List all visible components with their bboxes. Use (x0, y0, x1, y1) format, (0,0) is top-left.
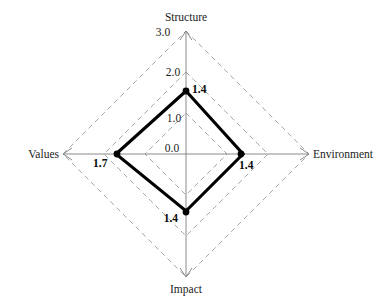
tick-label-3: 3.0 (156, 26, 171, 38)
data-point-environment (238, 151, 245, 158)
value-label-impact: 1.4 (164, 212, 179, 224)
data-point-structure (183, 88, 190, 95)
axis-label-values: Values (28, 148, 59, 160)
tick-label-0: 0.0 (165, 142, 180, 154)
value-label-values: 1.7 (93, 157, 108, 169)
radar-chart: 3.0 2.0 1.0 0.0 Structure Environment Im… (0, 0, 386, 305)
axis-label-impact: Impact (170, 283, 203, 296)
axis-lines (63, 31, 309, 277)
value-label-structure: 1.4 (192, 83, 207, 95)
axis-label-environment: Environment (313, 148, 374, 160)
data-point-impact (183, 209, 190, 216)
data-polygon (116, 91, 243, 211)
radar-chart-canvas: 3.0 2.0 1.0 0.0 Structure Environment Im… (0, 0, 386, 305)
axis-name-labels: Structure Environment Impact Values (28, 11, 374, 296)
axis-label-structure: Structure (165, 11, 207, 23)
value-label-environment: 1.4 (239, 159, 254, 171)
data-point-values (114, 151, 121, 158)
tick-label-2: 2.0 (166, 66, 181, 78)
tick-labels: 3.0 2.0 1.0 0.0 (156, 26, 182, 154)
tick-label-1: 1.0 (167, 112, 182, 124)
